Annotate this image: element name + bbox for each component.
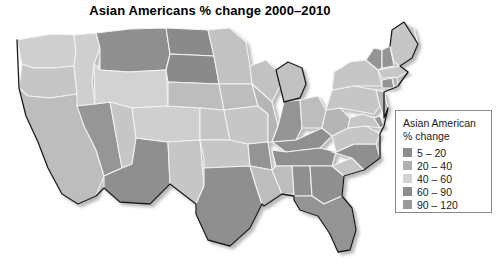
region-iowa bbox=[219, 84, 258, 110]
legend-item-list: 5 – 2020 – 4040 – 6060 – 9090 – 120 bbox=[403, 146, 491, 211]
region-alabama bbox=[292, 166, 312, 196]
region-missouri bbox=[224, 106, 268, 144]
region-north-dakota bbox=[166, 28, 214, 56]
page-title: Asian Americans % change 2000–2010 bbox=[0, 3, 420, 18]
legend-title-line2: % change bbox=[403, 130, 491, 143]
legend-swatch bbox=[403, 200, 412, 209]
region-colorado bbox=[132, 106, 200, 142]
legend-item: 60 – 90 bbox=[403, 185, 491, 198]
region-montana bbox=[96, 28, 170, 72]
legend-label: 60 – 90 bbox=[417, 186, 452, 198]
legend-swatch bbox=[403, 187, 412, 196]
region-florida bbox=[294, 196, 356, 252]
legend-swatch bbox=[403, 174, 412, 183]
legend-label: 5 – 20 bbox=[417, 147, 446, 159]
region-nebraska bbox=[168, 82, 224, 110]
legend-label: 40 – 60 bbox=[417, 173, 452, 185]
region-washington bbox=[17, 34, 76, 68]
legend-item: 40 – 60 bbox=[403, 172, 491, 185]
legend-label: 90 – 120 bbox=[417, 199, 458, 211]
legend-item: 20 – 40 bbox=[403, 159, 491, 172]
region-ohio bbox=[300, 96, 326, 128]
region-new-mexico bbox=[168, 140, 204, 204]
map-figure-page: Asian Americans % change 2000–2010 bbox=[0, 0, 500, 264]
legend-title-line1: Asian American bbox=[403, 117, 491, 130]
region-oklahoma bbox=[200, 140, 250, 168]
map-legend: Asian American % change 5 – 2020 – 4040 … bbox=[395, 110, 492, 213]
legend-swatch bbox=[403, 161, 412, 170]
legend-item: 5 – 20 bbox=[403, 146, 491, 159]
region-tennessee bbox=[272, 148, 336, 166]
legend-swatch bbox=[403, 148, 412, 157]
legend-item: 90 – 120 bbox=[403, 198, 491, 211]
region-south-dakota bbox=[166, 54, 219, 84]
legend-label: 20 – 40 bbox=[417, 160, 452, 172]
region-oregon bbox=[19, 64, 77, 98]
